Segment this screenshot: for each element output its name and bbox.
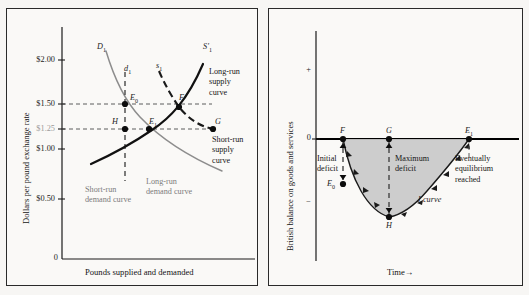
point-label-E0: E0 <box>327 179 335 191</box>
j-curve-label: J curve <box>417 195 442 205</box>
point-H <box>386 214 392 220</box>
curve-label-D1-sub: 1 <box>103 47 106 53</box>
point-label-E0-sub: 0 <box>332 184 335 190</box>
point-label-E0: E0 <box>130 93 138 105</box>
point-F <box>176 104 182 110</box>
y-tick-label-plus: + <box>295 65 311 74</box>
point-label-E1: E1 <box>465 126 473 138</box>
point-label-G: G <box>386 126 392 136</box>
point-label-E1: E1 <box>149 117 157 129</box>
figure-container: $2.00 $1.50 $1.25 $1.00 $0.50 0 Dollars … <box>0 0 529 295</box>
y-tick-label-zero: 0 <box>295 133 311 142</box>
point-E0 <box>340 181 346 187</box>
exchange-rate-panel: $2.00 $1.50 $1.25 $1.00 $0.50 0 Dollars … <box>6 8 258 286</box>
j-curve-panel: + 0 − British balance on goods and servi… <box>268 8 523 286</box>
curve-label-S1prime: S′1 <box>203 42 212 54</box>
point-label-F: F <box>179 93 184 103</box>
annotation-long-run-demand: Long-run demand curve <box>146 177 192 198</box>
deficit-shaded-region <box>343 139 469 217</box>
y-axis-title: Dollars per pound exchange rate <box>21 112 31 224</box>
x-axis-title: Pounds supplied and demanded <box>85 267 194 277</box>
annotation-long-run-supply: Long-run supply curve <box>209 67 240 98</box>
curve-label-s1-sub: 1 <box>159 66 162 72</box>
y-tick-label-minus: − <box>295 197 311 206</box>
point-label-F: F <box>340 126 345 136</box>
short-run-supply-curve <box>159 71 213 129</box>
point-E0 <box>122 101 128 107</box>
annotation-short-run-demand: Short-run demand curve <box>85 185 131 206</box>
point-label-E1-sub: 1 <box>470 131 473 137</box>
point-G <box>386 136 392 142</box>
y-tick-label-200: $2.00 <box>13 55 55 64</box>
y-tick-label-125: $1.25 <box>13 124 55 133</box>
curve-label-S1prime-sub: 1 <box>209 47 212 53</box>
long-run-supply-curve <box>91 64 203 164</box>
point-label-H: H <box>386 221 392 231</box>
y-tick-label-050: $0.50 <box>13 194 55 203</box>
j-curve-plot <box>269 9 524 287</box>
x-axis-title: Time→ <box>387 267 413 277</box>
curve-label-s1: s1 <box>156 61 162 73</box>
annotation-short-run-supply: Short-run supply curve <box>212 135 243 166</box>
point-label-E0-sub: 0 <box>135 98 138 104</box>
y-tick-label-100: $1.00 <box>13 144 55 153</box>
curve-label-d1: d1 <box>124 64 131 76</box>
annotation-maximum-deficit: Maximum deficit <box>395 154 429 175</box>
y-axis-title: British balance on goods and services <box>285 121 295 251</box>
curve-label-D1: D1 <box>97 42 106 54</box>
point-H <box>122 126 128 132</box>
point-G <box>210 126 216 132</box>
annotation-eventually-equilibrium: Eventually equilibrium reached <box>455 154 493 185</box>
point-F <box>340 136 346 142</box>
point-label-E1-sub: 1 <box>154 122 157 128</box>
point-label-G: G <box>215 117 221 127</box>
point-label-H: H <box>112 117 118 127</box>
y-tick-label-zero: 0 <box>13 253 58 262</box>
annotation-initial-deficit: Initial deficit <box>317 154 338 175</box>
curve-label-d1-sub: 1 <box>128 69 131 75</box>
y-tick-label-150: $1.50 <box>13 99 55 108</box>
